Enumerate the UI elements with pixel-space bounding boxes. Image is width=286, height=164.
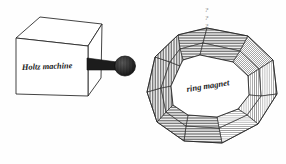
- annotation-marks: ? ? ?: [205, 6, 209, 30]
- crank-rod: [87, 58, 117, 70]
- crank-knob-hatch: [115, 56, 136, 76]
- figure-canvas: Holtz machine ? ? ?: [0, 0, 286, 164]
- annotation-mark-1: ?: [205, 6, 209, 14]
- ring-segment: [184, 126, 222, 143]
- holtz-machine-box: Holtz machine: [16, 17, 102, 96]
- diagram-svg: Holtz machine ? ? ?: [0, 0, 286, 164]
- ring-magnet: ring magnet: [147, 28, 277, 143]
- annotation-mark-2: ?: [205, 14, 209, 22]
